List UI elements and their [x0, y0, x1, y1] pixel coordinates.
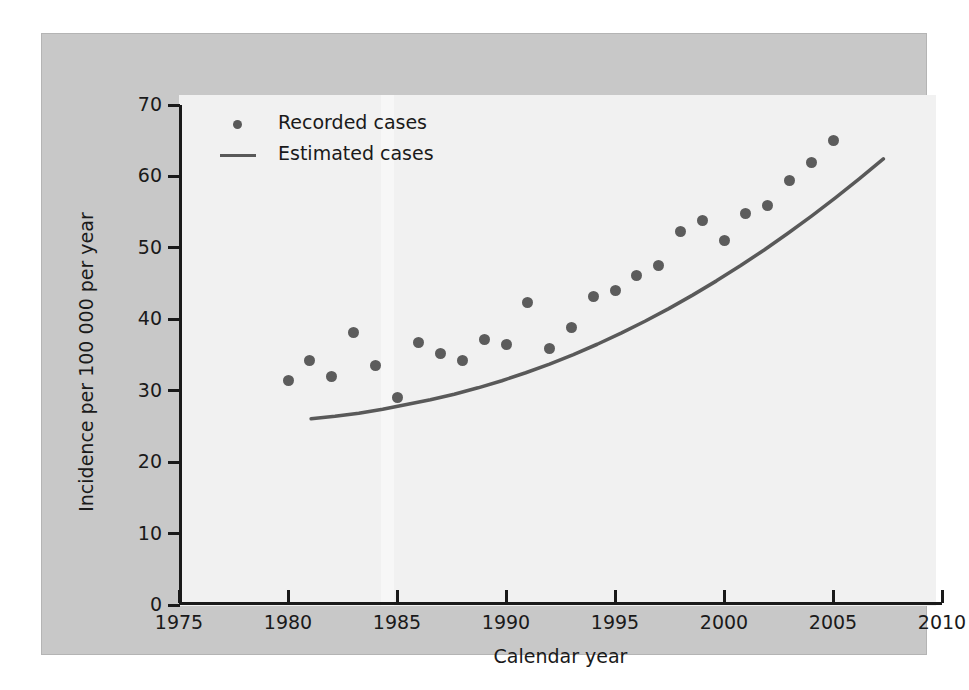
x-axis-line: [179, 602, 942, 605]
data-point: [413, 337, 424, 348]
x-tick-1985: [396, 590, 399, 603]
data-point: [304, 355, 315, 366]
y-axis-title: Incidence per 100 000 per year: [75, 112, 97, 612]
data-point: [675, 226, 686, 237]
data-point: [784, 175, 795, 186]
data-point: [588, 291, 599, 302]
x-tick-label-1975: 1975: [139, 611, 219, 633]
x-tick-2010: [941, 590, 944, 603]
x-tick-1975: [178, 590, 181, 603]
data-point: [697, 215, 708, 226]
data-point: [653, 260, 664, 271]
x-tick-label-2000: 2000: [684, 611, 764, 633]
x-tick-label-2010: 2010: [902, 611, 969, 633]
data-point: [370, 360, 381, 371]
legend-label-estimated-cases: Estimated cases: [278, 142, 434, 164]
legend-item-recorded-cases: Recorded cases: [216, 108, 476, 139]
y-tick-70: [168, 104, 180, 107]
figure-root: 010203040506070 197519801985199019952000…: [0, 0, 969, 690]
x-tick-label-1995: 1995: [575, 611, 655, 633]
x-tick-label-1985: 1985: [357, 611, 437, 633]
x-tick-label-2005: 2005: [793, 611, 873, 633]
dot-marker-icon: [216, 108, 262, 139]
data-point: [522, 297, 533, 308]
legend: Recorded cases Estimated cases: [216, 108, 476, 170]
y-tick-60: [168, 175, 180, 178]
data-point: [806, 157, 817, 168]
x-tick-1980: [287, 590, 290, 603]
y-tick-label-20: 20: [122, 450, 162, 472]
line-marker-icon: [216, 139, 262, 170]
data-point: [719, 235, 730, 246]
y-tick-label-70: 70: [122, 93, 162, 115]
legend-item-estimated-cases: Estimated cases: [216, 139, 476, 170]
data-point: [479, 334, 490, 345]
scan-artifact-band: [381, 95, 394, 606]
y-tick-label-50: 50: [122, 236, 162, 258]
data-point: [392, 392, 403, 403]
data-point: [326, 371, 337, 382]
data-point: [348, 327, 359, 338]
y-tick-label-60: 60: [122, 164, 162, 186]
scanned-figure-panel: 010203040506070 197519801985199019952000…: [41, 33, 927, 655]
x-axis-title: Calendar year: [179, 645, 942, 667]
plot-area: [179, 95, 936, 606]
data-point: [283, 375, 294, 386]
y-tick-40: [168, 318, 180, 321]
data-point: [610, 285, 621, 296]
y-tick-20: [168, 461, 180, 464]
y-tick-label-30: 30: [122, 379, 162, 401]
data-point: [501, 339, 512, 350]
data-point: [566, 322, 577, 333]
y-tick-10: [168, 532, 180, 535]
x-tick-1995: [614, 590, 617, 603]
y-tick-50: [168, 246, 180, 249]
y-tick-30: [168, 389, 180, 392]
data-point: [828, 135, 839, 146]
y-axis-line: [179, 105, 182, 605]
x-tick-label-1990: 1990: [466, 611, 546, 633]
y-tick-0: [168, 604, 180, 607]
x-tick-1990: [505, 590, 508, 603]
legend-label-recorded-cases: Recorded cases: [278, 111, 427, 133]
y-tick-label-10: 10: [122, 522, 162, 544]
x-tick-2005: [832, 590, 835, 603]
x-tick-label-1980: 1980: [248, 611, 328, 633]
y-tick-label-40: 40: [122, 307, 162, 329]
x-tick-2000: [723, 590, 726, 603]
data-point: [631, 270, 642, 281]
